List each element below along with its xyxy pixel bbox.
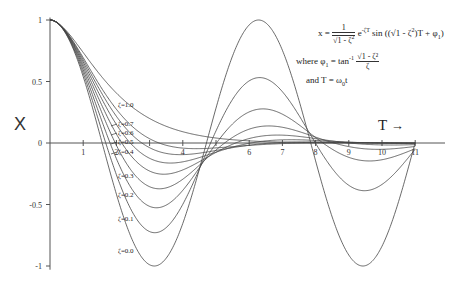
- formula-fraction: 1 √1 - ζ2: [332, 24, 355, 45]
- curve-label: ζ=1.0: [118, 101, 134, 109]
- where-label: where φ: [296, 56, 325, 66]
- x-tick-label: 4: [181, 148, 185, 157]
- y-tick-label: -0.5: [29, 201, 42, 210]
- y-tick-label: -1: [35, 262, 42, 271]
- y-tick-label: 0.5: [32, 78, 42, 87]
- x-axis-label-text: T: [378, 117, 387, 133]
- arrow-right-icon: →: [391, 118, 404, 133]
- where-fraction: √1 - ζ² ζ: [356, 53, 379, 71]
- fraction-denominator: √1 - ζ2: [332, 33, 355, 45]
- curve-label: ζ=0.6: [118, 129, 134, 137]
- fraction-numerator: 1: [332, 24, 355, 33]
- where-eq: = tan: [328, 56, 349, 66]
- y-tick-label: 0: [38, 139, 42, 148]
- and-label: and T = ω: [306, 75, 342, 85]
- formula-main: x = 1 √1 - ζ2 e-ζT sin ((√1 - ζ2)T + φ1): [318, 24, 444, 45]
- formula-where: where φ1 = tan-1 √1 - ζ² ζ: [296, 53, 379, 71]
- x-axis-label: T →: [378, 117, 404, 134]
- where-numerator: √1 - ζ²: [356, 53, 379, 62]
- y-tick-label: 1: [38, 16, 42, 25]
- curve-label: ζ=0.1: [118, 215, 134, 223]
- formula-lhs: x =: [318, 28, 332, 38]
- curve-label: ζ=0.7: [118, 120, 134, 128]
- and-tail: t: [345, 75, 348, 85]
- sin-term: sin ((√1 - ζ: [372, 28, 411, 38]
- formula-and: and T = ω0t: [306, 76, 347, 87]
- square: 2: [351, 34, 354, 40]
- exp-power: -ζT: [362, 27, 370, 33]
- curve-label: ζ=0.5: [118, 138, 134, 146]
- close-paren: ): [441, 28, 444, 38]
- where-inv: -1: [349, 55, 354, 61]
- sin-tail: )T + φ: [415, 28, 438, 38]
- curve-labels: ζ=1.0ζ=0.7ζ=0.6ζ=0.5ζ=0.4ζ=0.3ζ=0.2ζ=0.1…: [111, 101, 134, 255]
- x-tick-label: 1: [81, 148, 85, 157]
- where-denominator: ζ: [356, 62, 379, 71]
- y-axis-label: X: [14, 114, 26, 135]
- curve-label: ζ=0.3: [118, 172, 134, 180]
- curve-label: ζ=0.0: [118, 247, 134, 255]
- curve-zeta-0.2: [50, 20, 415, 208]
- x-tick-label: 9: [347, 148, 351, 157]
- curve-label: ζ=0.2: [118, 191, 134, 199]
- curve-label: ζ=0.4: [118, 148, 134, 156]
- root-text: √1 - ζ: [333, 36, 351, 45]
- x-tick-label: 7: [280, 148, 284, 157]
- x-tick-label: 6: [247, 148, 251, 157]
